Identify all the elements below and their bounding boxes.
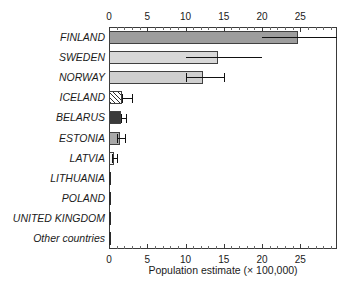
error-cap-3-0: [122, 94, 123, 103]
axis-tick-label-top-1: 5: [132, 12, 162, 22]
axis-tick-top-17: [239, 27, 240, 30]
error-cap-5-1: [125, 134, 126, 143]
axis-tick-bottom-29: [331, 246, 332, 249]
axis-tick-top-6: [155, 27, 156, 30]
axis-tick-bottom-10: [186, 244, 187, 249]
axis-tick-bottom-16: [231, 246, 232, 249]
axis-tick-bottom-14: [216, 246, 217, 249]
axis-tick-label-top-3: 15: [209, 12, 239, 22]
axis-tick-top-7: [163, 27, 164, 30]
axis-tick-bottom-27: [316, 246, 317, 249]
axis-tick-bottom-7: [163, 246, 164, 249]
axis-tick-bottom-8: [170, 246, 171, 249]
axis-tick-top-19: [254, 27, 255, 30]
axis-tick-top-1: [117, 27, 118, 30]
category-label-4: BELARUS: [0, 112, 105, 123]
horizontal-bar-chart: 05101520250510152025FINLANDSWEDENNORWAYI…: [0, 0, 356, 282]
axis-tick-bottom-23: [285, 246, 286, 249]
axis-tick-label-top-4: 20: [247, 12, 277, 22]
bar-iceland: [109, 91, 122, 104]
axis-tick-top-27: [316, 27, 317, 30]
axis-tick-bottom-25: [300, 244, 301, 249]
bar-poland: [109, 192, 111, 205]
axis-tick-label-top-0: 0: [94, 12, 124, 22]
axis-tick-bottom-17: [239, 246, 240, 249]
category-label-5: ESTONIA: [0, 133, 105, 144]
axis-tick-top-23: [285, 27, 286, 30]
axis-tick-bottom-1: [117, 246, 118, 249]
axis-tick-bottom-15: [224, 244, 225, 249]
axis-tick-top-4: [140, 27, 141, 30]
error-bar-0: [262, 37, 337, 38]
axis-tick-label-top-2: 10: [171, 12, 201, 22]
axis-tick-top-29: [331, 27, 332, 30]
axis-tick-bottom-18: [247, 246, 248, 249]
axis-tick-label-top-5: 25: [285, 12, 315, 22]
axis-tick-top-21: [270, 27, 271, 30]
axis-tick-top-25: [300, 27, 301, 32]
error-cap-2-0: [186, 73, 187, 82]
axis-tick-top-14: [216, 27, 217, 30]
axis-tick-top-28: [323, 27, 324, 30]
axis-tick-bottom-5: [147, 244, 148, 249]
axis-tick-bottom-13: [208, 246, 209, 249]
axis-tick-top-22: [277, 27, 278, 30]
axis-tick-bottom-22: [277, 246, 278, 249]
category-label-6: LATVIA: [0, 153, 105, 164]
category-label-2: NORWAY: [0, 72, 105, 83]
category-label-0: FINLAND: [0, 32, 105, 43]
error-bar-3: [122, 98, 132, 99]
axis-tick-top-8: [170, 27, 171, 30]
axis-tick-bottom-24: [293, 246, 294, 249]
category-label-8: POLAND: [0, 193, 105, 204]
bar-lithuania: [109, 172, 111, 185]
axis-tick-top-9: [178, 27, 179, 30]
axis-tick-top-26: [308, 27, 309, 30]
category-label-9: UNITED KINGDOM: [0, 213, 105, 224]
error-cap-2-1: [224, 73, 225, 82]
error-cap-4-1: [126, 114, 127, 123]
category-label-10: Other countries: [0, 233, 105, 244]
bar-united-kingdom: [109, 212, 111, 225]
axis-tick-bottom-21: [270, 246, 271, 249]
axis-tick-bottom-20: [262, 244, 263, 249]
axis-tick-top-2: [124, 27, 125, 30]
error-cap-4-0: [121, 114, 122, 123]
category-label-1: SWEDEN: [0, 52, 105, 63]
axis-tick-top-24: [293, 27, 294, 30]
axis-tick-bottom-11: [193, 246, 194, 249]
axis-tick-bottom-4: [140, 246, 141, 249]
error-bar-1: [186, 57, 263, 58]
error-cap-6-0: [112, 154, 113, 163]
error-cap-6-1: [117, 154, 118, 163]
axis-tick-top-16: [231, 27, 232, 30]
axis-tick-top-11: [193, 27, 194, 30]
axis-tick-bottom-9: [178, 246, 179, 249]
axis-tick-bottom-12: [201, 246, 202, 249]
axis-tick-bottom-3: [132, 246, 133, 249]
axis-tick-bottom-19: [254, 246, 255, 249]
axis-tick-bottom-26: [308, 246, 309, 249]
axis-tick-top-12: [201, 27, 202, 30]
category-label-7: LITHUANIA: [0, 173, 105, 184]
error-cap-3-1: [132, 94, 133, 103]
axis-tick-top-13: [208, 27, 209, 30]
axis-tick-top-3: [132, 27, 133, 30]
bar-other-countries: [109, 232, 111, 245]
axis-tick-bottom-6: [155, 246, 156, 249]
category-label-3: ICELAND: [0, 92, 105, 103]
axis-tick-bottom-2: [124, 246, 125, 249]
bar-belarus: [109, 111, 121, 124]
x-axis-title: Population estimate (× 100,000): [109, 264, 337, 276]
axis-tick-top-18: [247, 27, 248, 30]
axis-tick-bottom-28: [323, 246, 324, 249]
error-cap-5-0: [117, 134, 118, 143]
error-bar-2: [186, 77, 224, 78]
